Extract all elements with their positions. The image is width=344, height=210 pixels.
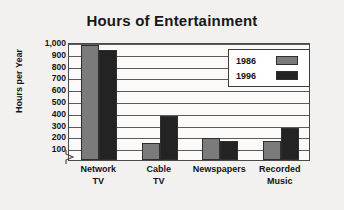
bar-group [69,44,130,160]
legend-swatch [276,71,298,80]
x-axis-category-labels: NetworkTVCableTVNewspapersRecordedMusic [68,164,310,200]
legend-label: 1986 [236,56,272,66]
y-axis-tick-label: 400 [30,109,66,119]
category-label-line: Recorded [250,164,311,176]
chart-legend: 19861996 [228,49,310,87]
bar-chart-figure: Hours of Entertainment Hours per Year 10… [0,0,344,210]
bar [160,116,178,160]
x-axis-category-label: RecordedMusic [250,164,311,187]
legend-label: 1996 [236,71,272,81]
y-axis-tick-label: 1,000 [30,38,66,48]
chart-title: Hours of Entertainment [0,12,344,29]
y-axis-tick-label: 900 [30,50,66,60]
y-axis-tick-label: 800 [30,62,66,72]
legend-swatch [276,56,298,65]
bar [220,141,238,160]
category-label-line: TV [68,176,129,188]
y-axis-tick-label: 600 [30,85,66,95]
bar-group [130,44,191,160]
y-axis-tick-label: 100 [30,144,66,154]
legend-item: 1986 [236,53,304,68]
bar [202,138,220,160]
x-axis-category-label: Newspapers [189,164,250,176]
category-label-line: Cable [129,164,190,176]
y-axis-tick-label: 200 [30,132,66,142]
category-label-line: Newspapers [189,164,250,176]
axis-break-icon [64,150,76,164]
bar [281,128,299,160]
x-axis-category-label: CableTV [129,164,190,187]
bar [142,143,160,160]
y-axis-title: Hours per Year [14,33,24,129]
x-axis-category-label: NetworkTV [68,164,129,187]
category-label-line: TV [129,176,190,188]
y-axis-tick-label: 300 [30,121,66,131]
bar [81,45,99,160]
legend-item: 1996 [236,68,304,83]
y-axis-tick-label: 500 [30,97,66,107]
bar [99,50,117,160]
bar [263,141,281,160]
y-axis-tick-labels: 1002003004005006007008009001,000 [30,43,66,161]
category-label-line: Music [250,176,311,188]
category-label-line: Network [68,164,129,176]
y-axis-tick-label: 700 [30,73,66,83]
